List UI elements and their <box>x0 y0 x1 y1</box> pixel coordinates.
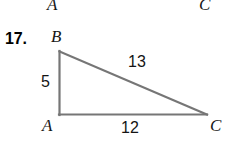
vertex-label-b: B <box>51 28 61 45</box>
side-measure-hypotenuse: 13 <box>128 54 146 70</box>
clipped-vertex-label-c: C <box>199 0 210 13</box>
figure-page: A C 17. B A C 5 13 12 <box>0 0 229 153</box>
right-triangle-figure <box>0 0 229 153</box>
side-measure-leg-vertical: 5 <box>41 74 50 90</box>
exercise-number: 17. <box>5 31 27 47</box>
vertex-label-a: A <box>42 117 52 134</box>
vertex-label-c: C <box>210 117 221 134</box>
side-measure-leg-horizontal: 12 <box>121 120 139 136</box>
clipped-vertex-label-a: A <box>47 0 57 13</box>
